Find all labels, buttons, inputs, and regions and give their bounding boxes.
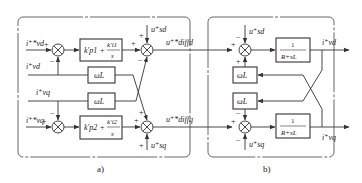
sign: − xyxy=(50,109,55,118)
sum-junction-a2 xyxy=(141,44,153,56)
omega-l-label-a-bottom: ωL xyxy=(94,97,105,106)
omega-l-label-b-top: ωL xyxy=(237,71,248,80)
sign: − xyxy=(138,56,143,65)
sign: + xyxy=(131,39,136,48)
input-i-vd-ref: i⁺*vd xyxy=(26,39,45,48)
sum-junction-b1 xyxy=(239,44,251,56)
omega-l-label-a-top: ωL xyxy=(94,71,105,80)
sum-junction-b2 xyxy=(239,121,251,133)
input-i-vd-fb: i⁺vd xyxy=(26,62,41,71)
pi1-plus: + xyxy=(100,46,105,55)
pi1-ki: k′i1 xyxy=(107,41,117,49)
sign: + xyxy=(231,117,236,126)
pi2-den: s xyxy=(111,130,114,138)
output-i-vd: i⁺vd xyxy=(322,38,337,47)
pi2-kp: k′p2 xyxy=(84,123,97,132)
feedforward-u-sq-a: u⁺sq xyxy=(151,141,166,150)
panel-a-frame xyxy=(18,17,190,157)
sign: + xyxy=(44,40,49,49)
output-u-diffq: u⁺*diffq xyxy=(166,115,193,124)
sign: − xyxy=(50,57,55,66)
disturbance-u-sd-b: u⁺sd xyxy=(249,27,265,36)
plant-d-den: R+sL xyxy=(280,53,297,61)
pi1-kp: k′p1 xyxy=(84,46,97,55)
caption-b: b) xyxy=(263,164,271,174)
sign: − xyxy=(236,136,241,145)
sign: + xyxy=(139,141,144,150)
sign: + xyxy=(139,108,144,117)
sign: + xyxy=(231,40,236,49)
feedforward-u-sd-a: u⁺sd xyxy=(151,25,167,34)
pi2-plus: + xyxy=(100,123,105,132)
sign: + xyxy=(134,116,139,125)
pi1-den: s xyxy=(111,52,114,60)
output-u-diffd: u⁺*diffd xyxy=(166,38,194,47)
sign: + xyxy=(236,57,241,66)
disturbance-u-sq-b: u⁺sq xyxy=(249,140,264,149)
input-i-vq-fb: i⁺vq xyxy=(36,88,50,97)
plant-q-num: 1 xyxy=(291,117,295,125)
pi2-ki: k′i2 xyxy=(107,118,118,126)
plant-q-den: R+sL xyxy=(280,129,297,137)
sign: + xyxy=(139,31,144,40)
sum-junction-a1 xyxy=(52,44,64,56)
plant-d-num: 1 xyxy=(291,41,295,49)
sign: + xyxy=(42,117,47,126)
omega-l-label-b-bottom: ωL xyxy=(237,97,248,106)
output-i-vq: i⁺vq xyxy=(322,133,336,142)
sum-junction-a3 xyxy=(52,121,64,133)
sign: − xyxy=(236,33,241,42)
caption-a: a) xyxy=(97,164,104,174)
panel-b-frame xyxy=(208,17,334,157)
control-block-diagram: i⁺*vd i⁺vd i⁺vq i⁺*vq + − − + + + − + + … xyxy=(0,0,362,183)
sum-junction-a4 xyxy=(141,121,153,133)
sign: − xyxy=(236,109,241,118)
